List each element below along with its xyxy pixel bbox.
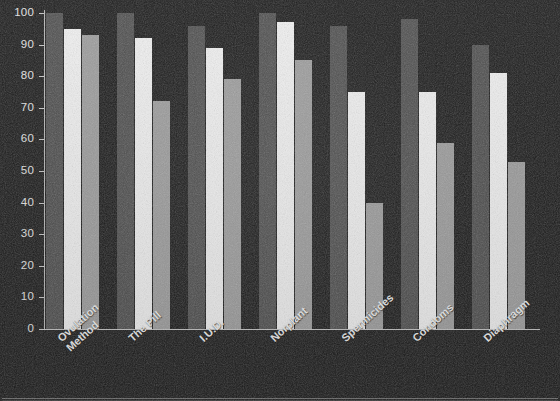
bar [419, 92, 436, 329]
bar [259, 13, 276, 329]
y-axis-tick-label: 100 [0, 6, 34, 18]
bar [472, 45, 489, 329]
y-axis-line [44, 10, 45, 330]
frame-bottom-highlight [2, 398, 558, 399]
bar [46, 13, 63, 329]
bar [153, 101, 170, 329]
bar [277, 22, 294, 329]
bar [206, 48, 223, 329]
y-axis-tick-mark [39, 76, 44, 77]
bar [82, 35, 99, 329]
y-axis-tick-mark [39, 266, 44, 267]
y-axis-tick-label: 10 [0, 290, 34, 302]
y-axis-tick-label: 0 [0, 322, 34, 334]
y-axis-tick-mark [39, 203, 44, 204]
bar [224, 79, 241, 329]
bar-chart: 0102030405060708090100 OvulationMethodTh… [0, 0, 560, 401]
y-axis-tick-mark [39, 108, 44, 109]
y-axis-tick-label: 80 [0, 69, 34, 81]
bar [188, 26, 205, 329]
bar [437, 143, 454, 329]
y-axis-tick-label: 60 [0, 132, 34, 144]
y-axis-tick-label: 20 [0, 259, 34, 271]
y-axis-tick-mark [39, 139, 44, 140]
y-axis-tick-label: 90 [0, 38, 34, 50]
y-axis-tick-mark [39, 234, 44, 235]
bar [64, 29, 81, 329]
y-axis-tick-label: 30 [0, 227, 34, 239]
bar [330, 26, 347, 329]
y-axis-tick-mark [39, 171, 44, 172]
y-axis-tick-mark [39, 13, 44, 14]
y-axis-tick-mark [39, 45, 44, 46]
y-axis-tick-mark [39, 297, 44, 298]
y-axis-tick-mark [39, 329, 44, 330]
y-axis-tick-label: 40 [0, 196, 34, 208]
bar [490, 73, 507, 329]
y-axis-tick-label: 50 [0, 164, 34, 176]
y-axis-tick-label: 70 [0, 101, 34, 113]
bar [401, 19, 418, 329]
bar [295, 60, 312, 329]
bar [348, 92, 365, 329]
bar [135, 38, 152, 329]
bar [117, 13, 134, 329]
